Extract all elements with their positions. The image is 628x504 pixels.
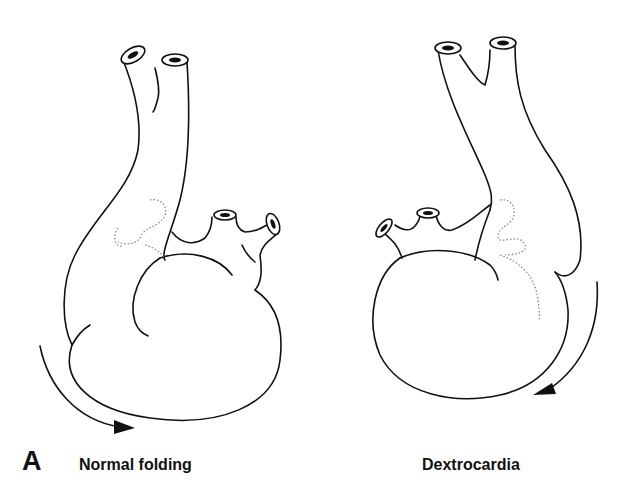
figure-canvas: A Normal folding Dextrocardia [0,0,628,504]
panel-label: A [22,448,42,475]
heart-folding-illustration [0,0,628,504]
normal-folding-heart [40,42,282,434]
caption-normal-folding: Normal folding [79,457,192,473]
caption-dextrocardia: Dextrocardia [422,457,520,473]
dextrocardia-heart [373,37,597,399]
